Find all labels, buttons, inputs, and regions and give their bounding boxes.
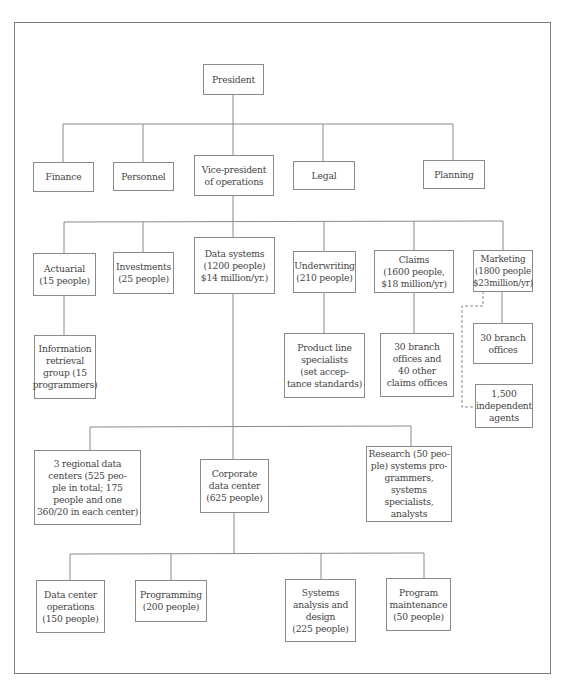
node-personnel: Personnel (113, 162, 174, 191)
node-programming: Programming (200 people) (135, 580, 207, 622)
node-independent-agents: 1,500 independent agents (475, 384, 533, 428)
node-legal: Legal (293, 161, 355, 190)
node-underwriting: Underwriting (210 people) (293, 251, 356, 293)
node-investments: Investments (25 people) (113, 252, 174, 294)
node-regional-centers: 3 regional data centers (525 peo- ple in… (34, 450, 141, 525)
node-program-maintenance: Program maintenance (50 people) (386, 578, 451, 631)
node-president: President (203, 64, 264, 95)
node-planning: Planning (423, 160, 485, 189)
node-claims-offices: 30 branch offices and 40 other claims of… (380, 333, 454, 397)
node-finance: Finance (33, 162, 94, 192)
node-corporate-center: Corporate data center (625 people) (200, 459, 269, 513)
node-claims: Claims (1600 people, $18 million/yr) (374, 250, 454, 293)
node-data-systems: Data systems (1200 people) $14 million/y… (194, 237, 275, 294)
node-actuarial: Actuarial (15 people) (33, 253, 96, 296)
node-product-line: Product line specialists (set accep- tan… (284, 333, 365, 398)
node-dc-operations: Data center operations (150 people) (36, 580, 105, 633)
node-marketing: Marketing (1800 people $23million/yr) (473, 250, 533, 292)
node-marketing-branches: 30 branch offices (473, 323, 533, 364)
node-vp-operations: Vice-president of operations (194, 155, 274, 196)
node-research: Research (50 peo- ple) systems pro- gram… (366, 446, 452, 522)
node-info-retrieval: Information retrieval group (15 programm… (34, 335, 96, 399)
node-systems-analysis: Systems analysis and design (225 people) (285, 579, 356, 642)
